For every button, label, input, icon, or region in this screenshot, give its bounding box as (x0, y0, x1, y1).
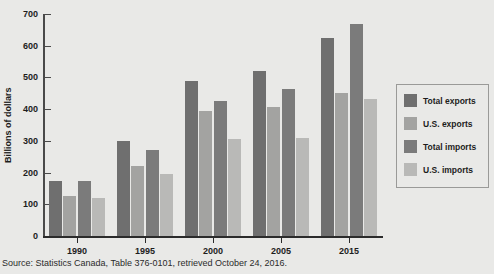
legend-label: Total imports (423, 142, 476, 152)
y-tick-group: 0 (43, 236, 51, 237)
y-tick-group: 500 (43, 77, 51, 78)
legend-swatch-icon (404, 94, 417, 107)
y-tick-label: 500 (23, 72, 38, 82)
y-tick-mark (45, 46, 51, 47)
legend-label: Total exports (423, 96, 476, 106)
bar (321, 38, 334, 236)
bar (267, 107, 280, 236)
y-tick-mark (45, 141, 51, 142)
bar (282, 89, 295, 236)
legend-label: U.S. imports (423, 165, 473, 175)
bar (214, 101, 227, 236)
source-note: Source: Statistics Canada, Table 376-010… (2, 258, 287, 268)
x-tick-label: 2000 (203, 246, 223, 256)
bar-chart-figure: Billions of dollars 01002003004005006007… (0, 0, 494, 274)
x-tick-label: 2005 (271, 246, 291, 256)
x-tick-label: 1995 (135, 246, 155, 256)
bar (63, 196, 76, 236)
bar (92, 198, 105, 236)
y-tick-label: 600 (23, 41, 38, 51)
x-tick-mark (281, 238, 282, 243)
y-tick-group: 700 (43, 14, 51, 15)
bar (335, 93, 348, 236)
legend-item[interactable]: U.S. exports (404, 117, 473, 130)
y-tick-mark (45, 109, 51, 110)
x-tick-mark (213, 238, 214, 243)
bar (199, 111, 212, 236)
legend-swatch-icon (404, 163, 417, 176)
bar (185, 81, 198, 236)
x-tick-mark (145, 238, 146, 243)
y-tick-group: 600 (43, 46, 51, 47)
legend-swatch-icon (404, 140, 417, 153)
y-tick-group: 200 (43, 173, 51, 174)
bar (364, 99, 377, 236)
y-tick-label: 200 (23, 168, 38, 178)
y-tick-mark (45, 173, 51, 174)
y-tick-mark (45, 77, 51, 78)
y-axis-line (43, 14, 45, 236)
x-tick-mark (77, 238, 78, 243)
x-tick-label: 1990 (67, 246, 87, 256)
legend-item[interactable]: Total imports (404, 140, 476, 153)
bar (78, 181, 91, 237)
legend-label: U.S. exports (423, 119, 473, 129)
y-tick-group: 300 (43, 141, 51, 142)
x-tick-mark (349, 238, 350, 243)
x-tick-label: 2015 (339, 246, 359, 256)
bar (228, 139, 241, 236)
bar (296, 138, 309, 236)
bar (160, 174, 173, 236)
y-tick-label: 400 (23, 104, 38, 114)
legend-item[interactable]: Total exports (404, 94, 476, 107)
y-tick-mark (45, 14, 51, 15)
y-tick-label: 0 (33, 231, 38, 241)
y-tick-label: 700 (23, 9, 38, 19)
bar (146, 150, 159, 236)
bar (253, 71, 266, 236)
bar (49, 181, 62, 237)
y-axis-title: Billions of dollars (0, 60, 16, 190)
bar (350, 24, 363, 236)
y-tick-label: 300 (23, 136, 38, 146)
bar (131, 166, 144, 236)
y-tick-group: 400 (43, 109, 51, 110)
bar (117, 141, 130, 236)
plot-area: 0100200300400500600700 19901995200020052… (43, 14, 383, 236)
chart-legend: Total exportsU.S. exportsTotal importsU.… (396, 84, 489, 188)
legend-item[interactable]: U.S. imports (404, 163, 473, 176)
y-tick-label: 100 (23, 199, 38, 209)
legend-swatch-icon (404, 117, 417, 130)
